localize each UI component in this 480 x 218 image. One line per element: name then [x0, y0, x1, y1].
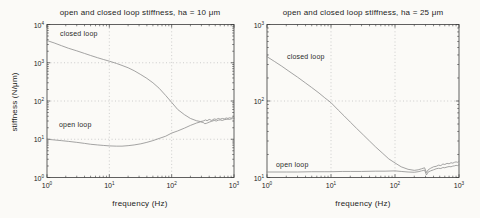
- plot1-grid: [47, 25, 234, 178]
- plot-canvas: [0, 0, 480, 218]
- plot2-grid: [267, 25, 459, 178]
- plot1-series-closed-loop: [47, 41, 234, 122]
- plot1-series-open-loop: [47, 118, 234, 146]
- plot2-series-closed-loop: [267, 57, 459, 173]
- figure: open and closed loop stiffness, ha = 10 …: [0, 0, 480, 218]
- plot2-series-open-loop: [267, 165, 459, 175]
